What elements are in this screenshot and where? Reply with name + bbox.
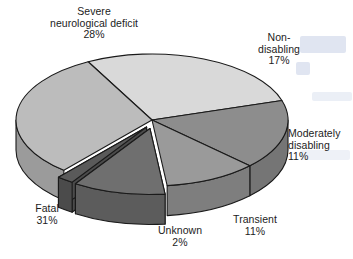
slice-label-transient: Transient 11%: [222, 214, 288, 237]
pie-geometry: [16, 54, 288, 224]
slice-label-percent: 17%: [242, 55, 316, 67]
slice-label-line: Moderately: [288, 128, 353, 140]
slice-label-moderately-disabling: Moderately disabling 11%: [288, 128, 353, 163]
slice-label-line: Transient: [222, 214, 288, 226]
slice-label-fatal: Fatal 31%: [22, 203, 72, 226]
slice-label-percent: 2%: [148, 237, 212, 249]
slice-label-percent: 11%: [222, 226, 288, 238]
slice-label-line: Fatal: [22, 203, 72, 215]
slice-label-percent: 28%: [26, 29, 162, 41]
slice-label-line: Severe: [26, 6, 162, 18]
slice-label-percent: 11%: [288, 151, 353, 163]
slice-label-severe-neurological-deficit: Severe neurological deficit 28%: [26, 6, 162, 41]
slice-label-line: Non-: [242, 32, 316, 44]
slice-label-line: Unknown: [148, 225, 212, 237]
slice-label-non-disabling: Non- disabling 17%: [242, 32, 316, 67]
pie-chart-figure: Severe neurological deficit 28% Non- dis…: [0, 0, 353, 259]
slice-label-unknown: Unknown 2%: [148, 225, 212, 248]
slice-label-percent: 31%: [22, 215, 72, 227]
